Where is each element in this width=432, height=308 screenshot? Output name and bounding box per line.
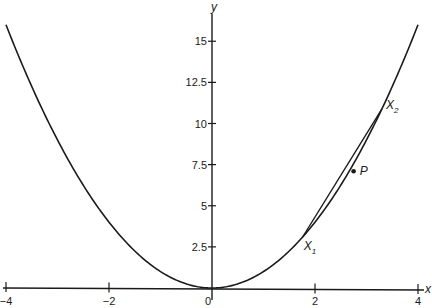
x-tick-label: −4 — [0, 295, 12, 307]
x-tick-label: 4 — [415, 295, 421, 307]
y-tick-label: 15 — [195, 35, 207, 47]
annotations: X1X2P — [303, 98, 399, 256]
x-ticks: −4−2024 — [0, 282, 421, 307]
y-tick-label: 2.5 — [192, 241, 207, 253]
y-tick-label: 10 — [195, 118, 207, 130]
x-axis-label: x — [424, 282, 432, 296]
point-x2-label: X2 — [385, 98, 399, 115]
chart: −4−2024 2.557.51012.515 x y X1X2P — [0, 0, 432, 308]
y-tick-label: 12.5 — [186, 76, 207, 88]
point-x1-label: X1 — [303, 239, 316, 256]
x-tick-label: −2 — [103, 295, 116, 307]
y-tick-label: 7.5 — [192, 159, 207, 171]
point-p-marker — [351, 169, 356, 174]
y-axis-label: y — [210, 0, 218, 14]
x-tick-label: 0 — [205, 295, 211, 307]
y-tick-label: 5 — [201, 200, 207, 212]
x-tick-label: 2 — [312, 295, 318, 307]
chord-line — [303, 109, 382, 237]
point-p-label: P — [360, 164, 368, 178]
